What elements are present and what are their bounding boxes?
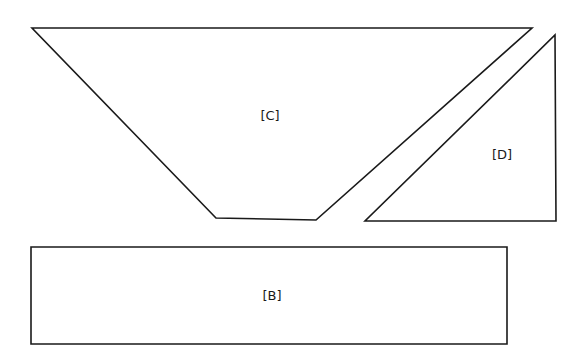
shape-c-label: [C] (260, 108, 279, 123)
shape-b-group: [B] (31, 247, 507, 344)
shape-d-label: [D] (492, 147, 512, 162)
shapes-diagram: [C] [D] [B] (0, 0, 584, 363)
shape-b-label: [B] (262, 288, 281, 303)
